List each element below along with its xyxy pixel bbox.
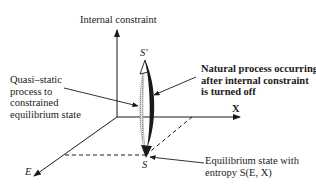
equilibrium-pointer bbox=[150, 157, 204, 163]
natural-process-path bbox=[145, 60, 154, 148]
natural-process-pointer bbox=[154, 77, 196, 95]
s-label: S bbox=[142, 159, 147, 171]
quasi-static-path bbox=[140, 62, 146, 156]
x-axis-label: X bbox=[232, 103, 240, 115]
entropy-diagram: Internal constraint X E S' S Quasi–stati… bbox=[0, 0, 316, 190]
natural-process-annotation: Natural process occurring after internal… bbox=[201, 63, 316, 98]
annotation-line: is turned off bbox=[201, 86, 316, 98]
annotation-line: Quasi–static bbox=[10, 74, 81, 86]
natural-process-arrowhead bbox=[141, 145, 152, 158]
annotation-line: Natural process occurring bbox=[201, 63, 316, 75]
internal-constraint-label: Internal constraint bbox=[80, 14, 157, 26]
annotation-line: after internal constraint bbox=[201, 75, 316, 87]
e-axis-label: E bbox=[25, 166, 31, 178]
e-axis bbox=[34, 117, 117, 176]
annotation-line: constrained bbox=[10, 97, 81, 109]
annotation-line: entropy S(E, X) bbox=[205, 167, 299, 179]
annotation-line: equilibrium state bbox=[10, 109, 81, 121]
annotation-line: Equilibrium state with bbox=[205, 155, 299, 167]
equilibrium-annotation: Equilibrium state with entropy S(E, X) bbox=[205, 155, 299, 178]
quasi-static-annotation: Quasi–static process to constrained equi… bbox=[10, 74, 81, 120]
s-prime-label: S' bbox=[140, 47, 148, 59]
annotation-line: process to bbox=[10, 86, 81, 98]
